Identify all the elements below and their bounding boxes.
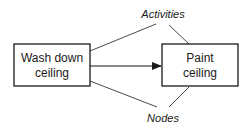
node-label-line2: ceiling (35, 66, 69, 80)
leader-line-activities-left (90, 24, 156, 51)
leader-line-nodes-left (90, 81, 157, 107)
node-label-line2: ceiling (183, 66, 217, 80)
annotation-nodes: Nodes (147, 112, 179, 124)
node-paint-ceiling: Paint ceiling (162, 44, 238, 86)
annotation-activities: Activities (140, 8, 185, 20)
node-label-line1: Wash down (21, 51, 83, 65)
diagram-canvas: Wash down ceiling Paint ceiling Activiti… (0, 0, 252, 131)
leader-line-activities-right (169, 25, 189, 44)
node-wash-down-ceiling: Wash down ceiling (14, 44, 90, 86)
node-label-line1: Paint (186, 51, 214, 65)
leader-line-nodes-right (169, 87, 189, 107)
